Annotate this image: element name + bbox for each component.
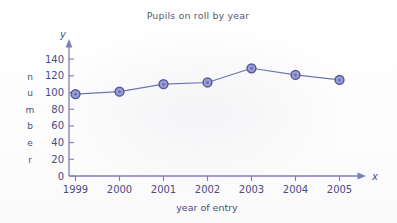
y-tick-label: 20 xyxy=(51,154,64,165)
x-tick-label: 2004 xyxy=(283,184,308,195)
data-marker-group xyxy=(71,64,344,99)
data-point-center xyxy=(338,78,341,81)
x-tick-label: 1999 xyxy=(63,184,88,195)
y-tick-label: 0 xyxy=(58,171,64,182)
y-tick-label: 60 xyxy=(51,120,64,131)
x-axis-title: year of entry xyxy=(176,202,238,213)
data-point-center xyxy=(118,90,121,93)
y-axis-letter: y xyxy=(59,29,67,40)
y-axis-title-letter: b xyxy=(27,121,33,131)
y-axis-title-letter: n xyxy=(27,72,33,82)
data-point-center xyxy=(250,67,253,70)
y-axis-title: n u m b e r xyxy=(26,72,35,165)
y-axis-title-letter: e xyxy=(27,138,33,148)
chart-title: Pupils on roll by year xyxy=(147,10,250,21)
x-tick-label: 2003 xyxy=(239,184,264,195)
y-tick-label: 100 xyxy=(45,87,64,98)
y-tick-label: 120 xyxy=(45,70,64,81)
x-tick-label: 2000 xyxy=(107,184,132,195)
y-axis-title-letter: r xyxy=(28,155,32,165)
y-axis-title-letter: m xyxy=(26,105,35,115)
y-axis-arrow-icon xyxy=(66,39,73,48)
x-tick-label: 2001 xyxy=(151,184,176,195)
data-point-center xyxy=(162,83,165,86)
y-tick-label: 80 xyxy=(51,104,64,115)
y-tick-label: 140 xyxy=(45,54,64,65)
x-tick-label: 2002 xyxy=(195,184,220,195)
data-point-center xyxy=(206,81,209,84)
x-axis-arrow-icon xyxy=(358,173,367,180)
x-tick-label: 2005 xyxy=(327,184,352,195)
pupils-on-roll-line-chart: Pupils on roll by year y x 0 20 40 60 xyxy=(0,0,397,223)
x-axis: x xyxy=(69,171,378,182)
y-axis-title-letter: u xyxy=(27,88,33,98)
y-tick-label: 40 xyxy=(51,137,64,148)
chart-figure: Pupils on roll by year y x 0 20 40 60 xyxy=(0,0,397,223)
x-tick-group: 1999 2000 2001 2002 2003 2004 2005 xyxy=(63,176,352,195)
data-point-center xyxy=(74,93,77,96)
x-axis-letter: x xyxy=(371,171,378,182)
data-point-center xyxy=(294,73,297,76)
